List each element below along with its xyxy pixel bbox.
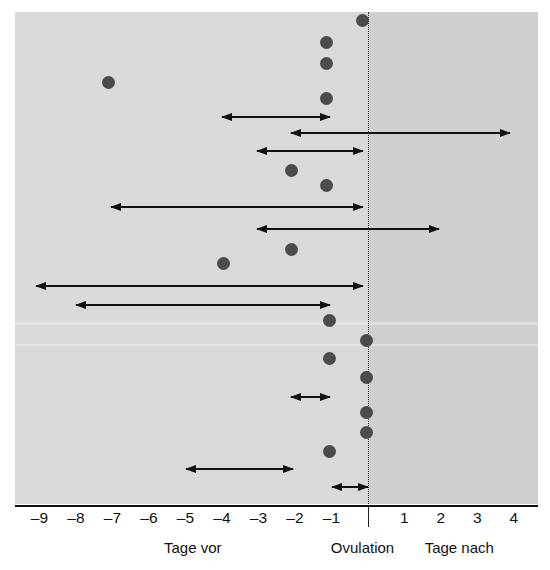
ovulation-axis-tick <box>368 505 369 527</box>
axis-caption-tage-nach: Tage nach <box>425 539 494 556</box>
intercourse-dot <box>360 406 373 419</box>
intercourse-dot <box>360 426 373 439</box>
x-tick-neg7: –7 <box>93 509 133 527</box>
intercourse-dot <box>102 76 115 89</box>
plot-region-after-ovulation <box>368 12 538 504</box>
intercourse-dot <box>323 445 336 458</box>
intercourse-interval-arrow <box>257 150 363 152</box>
x-tick-neg4: –4 <box>202 509 242 527</box>
intercourse-dot <box>323 352 336 365</box>
intercourse-dot <box>285 164 298 177</box>
intercourse-interval-arrow <box>291 132 510 134</box>
x-tick-4: 4 <box>494 509 534 527</box>
intercourse-dot <box>323 314 336 327</box>
x-tick-2: 2 <box>421 509 461 527</box>
intercourse-interval-arrow <box>291 396 329 398</box>
x-axis-line <box>15 505 538 507</box>
intercourse-interval-arrow <box>76 304 330 306</box>
intercourse-dot <box>356 14 369 27</box>
axis-caption-ovulation: Ovulation <box>331 539 394 556</box>
intercourse-dot <box>320 57 333 70</box>
intercourse-dot <box>320 92 333 105</box>
fertility-window-chart: –9–8–7–6–5–4–3–2–11234 Tage vorOvulation… <box>0 0 550 570</box>
x-tick-neg3: –3 <box>239 509 279 527</box>
intercourse-interval-arrow <box>222 116 330 118</box>
x-tick-neg9: –9 <box>20 509 60 527</box>
intercourse-dot <box>360 371 373 384</box>
x-tick-neg8: –8 <box>56 509 96 527</box>
intercourse-dot <box>285 243 298 256</box>
x-tick-3: 3 <box>458 509 498 527</box>
plot-region-before-ovulation <box>15 12 368 504</box>
x-tick-neg2: –2 <box>275 509 315 527</box>
axis-caption-tage-vor: Tage vor <box>164 539 222 556</box>
intercourse-dot <box>360 334 373 347</box>
x-tick-1: 1 <box>385 509 425 527</box>
x-tick-neg1: –1 <box>312 509 352 527</box>
x-tick-neg6: –6 <box>129 509 169 527</box>
intercourse-interval-arrow <box>186 468 294 470</box>
intercourse-dot <box>217 257 230 270</box>
intercourse-interval-arrow <box>111 206 363 208</box>
x-tick-neg5: –5 <box>166 509 206 527</box>
intercourse-interval-arrow <box>332 486 369 488</box>
intercourse-interval-arrow <box>36 285 363 287</box>
intercourse-dot <box>320 36 333 49</box>
intercourse-interval-arrow <box>257 228 440 230</box>
intercourse-dot <box>320 179 333 192</box>
plot-area <box>15 12 538 504</box>
